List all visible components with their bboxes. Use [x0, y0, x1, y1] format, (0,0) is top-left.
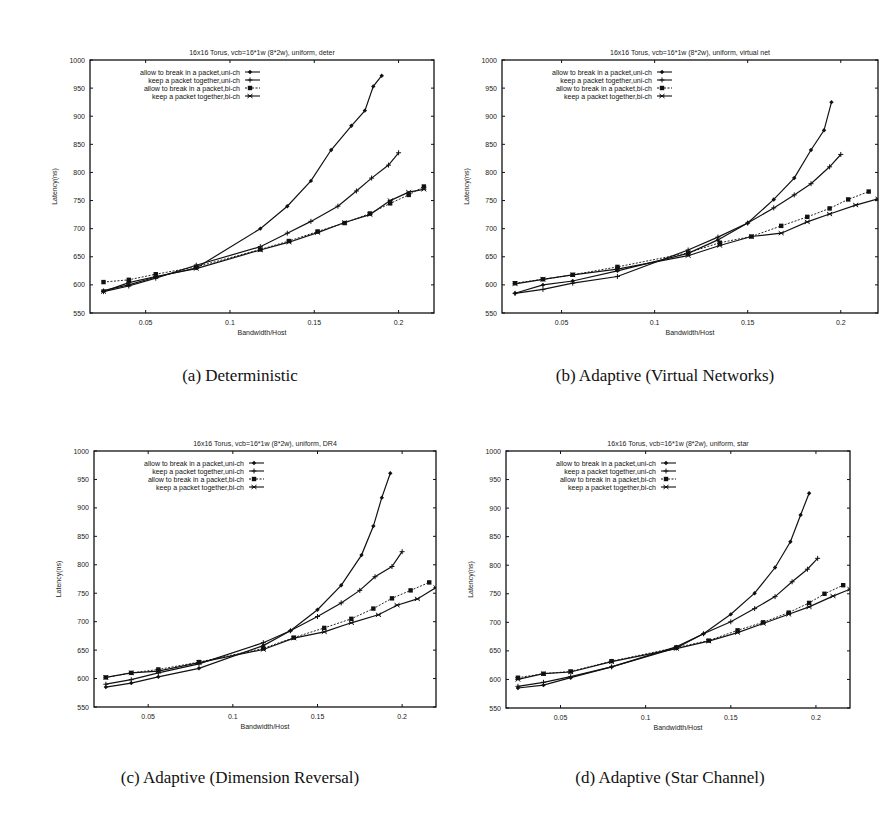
y-tick-label: 800 — [489, 562, 501, 569]
caption-c: (c) Adaptive (Dimension Reversal) — [70, 768, 410, 788]
chart-svg: 16x16 Torus, vcb=16*1w (8*2w), uniform, … — [0, 0, 894, 834]
y-tick-label: 600 — [489, 676, 501, 683]
y-tick-label: 750 — [489, 590, 501, 597]
series-line — [516, 491, 812, 690]
y-tick-label: 900 — [489, 505, 501, 512]
y-tick-label: 850 — [489, 533, 501, 540]
chart-title: 16x16 Torus, vcb=16*1w (8*2w), uniform, … — [607, 440, 749, 448]
y-tick-label: 650 — [489, 647, 501, 654]
legend-swatch — [661, 469, 676, 474]
x-tick-label: 0.15 — [724, 714, 738, 721]
x-axis-label: Bandwidth/Host — [653, 724, 702, 731]
caption-b: (b) Adaptive (Virtual Networks) — [500, 366, 830, 386]
legend-label: allow to break in a packet,uni-ch — [556, 460, 656, 468]
caption-d: (d) Adaptive (Star Channel) — [520, 768, 820, 788]
series-line — [516, 583, 846, 680]
x-tick-label: 0.2 — [811, 714, 821, 721]
y-tick-label: 550 — [489, 705, 501, 712]
y-tick-label: 700 — [489, 619, 501, 626]
y-tick-label: 1000 — [485, 448, 501, 455]
series-line — [515, 556, 820, 689]
y-tick-label: 950 — [489, 476, 501, 483]
x-tick-label: 0.05 — [554, 714, 568, 721]
legend-swatch — [661, 477, 676, 481]
series-line — [515, 587, 852, 681]
legend-label: keep a packet together,uni-ch — [564, 468, 656, 476]
legend-swatch — [661, 461, 676, 465]
legend-swatch — [661, 485, 676, 489]
legend-label: keep a packet together,bi-ch — [568, 484, 656, 492]
caption-a: (a) Deterministic — [140, 366, 340, 386]
x-tick-label: 0.1 — [641, 714, 651, 721]
plot-frame — [506, 451, 850, 708]
legend-label: allow to break in a packet,bi-ch — [560, 476, 656, 484]
y-axis-label: Latency(ns) — [467, 561, 475, 598]
